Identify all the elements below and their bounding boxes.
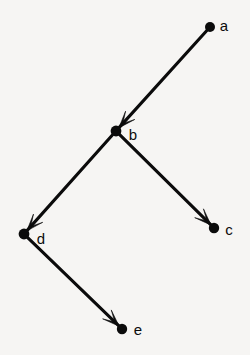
node-label-e: e xyxy=(134,321,142,338)
graph-canvas: abcde xyxy=(0,0,250,355)
node-label-b: b xyxy=(129,126,137,143)
edge-line-a-b xyxy=(119,30,208,128)
graph-node-e[interactable] xyxy=(117,324,127,334)
edge-line-b-d xyxy=(27,134,113,231)
edges-layer xyxy=(27,30,211,326)
directed-graph-figure: abcde xyxy=(0,0,250,355)
edge-line-d-e xyxy=(27,237,119,326)
graph-node-a[interactable] xyxy=(205,22,215,32)
graph-edge-a-b xyxy=(119,30,208,128)
edge-line-b-c xyxy=(119,134,211,225)
graph-edge-b-c xyxy=(119,134,211,225)
nodes-layer xyxy=(19,22,220,334)
graph-node-d[interactable] xyxy=(19,229,30,240)
node-label-d: d xyxy=(37,230,45,247)
graph-node-c[interactable] xyxy=(209,223,219,233)
node-label-a: a xyxy=(220,17,229,34)
graph-edge-d-e xyxy=(27,237,119,326)
graph-node-b[interactable] xyxy=(111,126,122,137)
graph-edge-b-d xyxy=(27,134,113,231)
node-label-c: c xyxy=(225,221,233,238)
labels-layer: abcde xyxy=(37,17,233,338)
